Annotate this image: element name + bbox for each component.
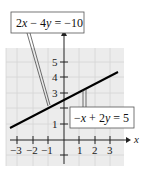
graph: x y −3 −2 −1 1 2 3 1 3 4 5 2x − 4y = −10… xyxy=(0,0,142,169)
y-tick-label: 1 xyxy=(52,118,58,130)
x-axis-label: x xyxy=(133,133,139,145)
x-tick-label: 2 xyxy=(92,144,98,156)
x-tick-label: −2 xyxy=(26,144,38,156)
x-axis-arrow-icon xyxy=(126,137,131,143)
x-tick-label: −3 xyxy=(10,144,22,156)
x-tick-label: −1 xyxy=(41,144,53,156)
equation-label-2: −x + 2y = 5 xyxy=(74,111,129,125)
y-tick-label: 4 xyxy=(52,71,58,83)
y-tick-label: 3 xyxy=(52,87,58,99)
equation-label-1: 2x − 4y = −10 xyxy=(16,16,83,30)
x-tick-label: 3 xyxy=(107,144,113,156)
y-tick-label: 5 xyxy=(52,56,58,68)
x-tick-label: 1 xyxy=(77,144,83,156)
